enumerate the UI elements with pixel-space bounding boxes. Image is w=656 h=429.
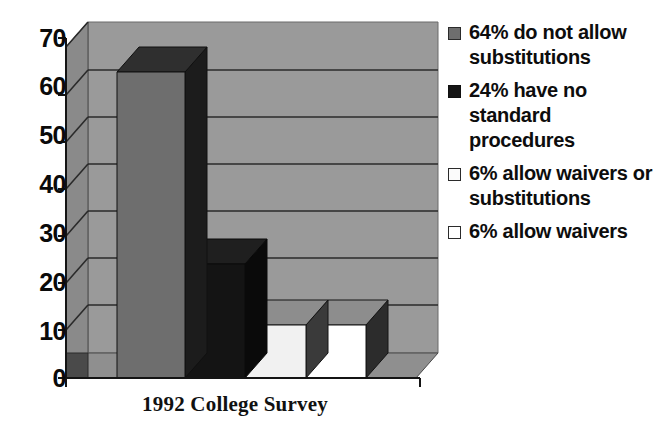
x-axis xyxy=(66,378,420,387)
y-axis-tick-labels: 70 60 50 40 30 20 10 0 xyxy=(10,0,66,429)
chart-title: 1992 College Survey xyxy=(60,392,410,416)
y-tick-20: 20 xyxy=(20,270,66,295)
y-tick-30: 30 xyxy=(20,221,66,246)
legend-swatch-icon-3 xyxy=(448,168,461,181)
chart-legend: 64% do not allow substitutions 24% have … xyxy=(448,20,656,252)
bar-1-side xyxy=(185,47,207,378)
legend-label-2: 24% have no standard procedures xyxy=(469,78,655,153)
y-tick-70: 70 xyxy=(20,26,66,51)
legend-item-3[interactable]: 6% allow waivers or substitutions xyxy=(448,161,656,211)
bar-1-do-not-allow-substitutions xyxy=(117,47,207,378)
y-tick-10: 10 xyxy=(20,319,66,344)
legend-swatch-icon-1 xyxy=(448,27,461,40)
legend-label-3: 6% allow waivers or substitutions xyxy=(469,161,655,211)
y-tick-40: 40 xyxy=(20,172,66,197)
y-tick-50: 50 xyxy=(20,123,66,148)
left-side-wall xyxy=(66,22,88,378)
legend-item-4[interactable]: 6% allow waivers xyxy=(448,219,656,244)
y-tick-0: 0 xyxy=(20,366,66,391)
bar-chart-figure: 70 60 50 40 30 20 10 0 1992 College Surv… xyxy=(0,0,656,429)
y-tick-60: 60 xyxy=(20,74,66,99)
bar-1-front xyxy=(117,72,185,378)
legend-label-4: 6% allow waivers xyxy=(469,219,628,244)
legend-swatch-icon-4 xyxy=(448,226,461,239)
legend-item-2[interactable]: 24% have no standard procedures xyxy=(448,78,656,153)
floor-corner-block xyxy=(66,353,88,378)
legend-label-1: 64% do not allow substitutions xyxy=(469,20,655,70)
legend-swatch-icon-2 xyxy=(448,85,461,98)
legend-item-1[interactable]: 64% do not allow substitutions xyxy=(448,20,656,70)
